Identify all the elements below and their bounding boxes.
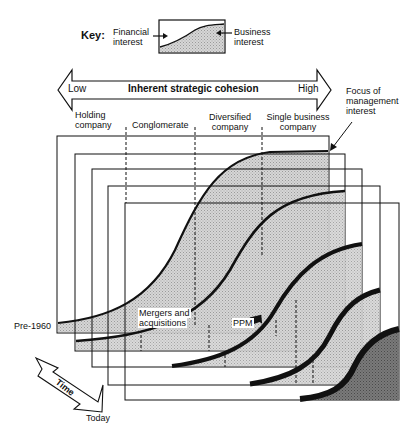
pre-1960-label: Pre-1960	[14, 321, 51, 331]
axis-high-label: High	[298, 84, 319, 94]
stage-conglomerate: Conglomerate	[132, 120, 189, 130]
ppm-label: PPM	[232, 318, 254, 328]
stage-single-line2: company	[264, 122, 332, 132]
stage-holding-line2: company	[75, 120, 112, 130]
key-financial-line1: Financial	[113, 27, 149, 37]
focus-label-line3: interest	[346, 106, 376, 116]
today-label: Today	[86, 413, 110, 423]
axis-title: Inherent strategic cohesion	[128, 84, 259, 94]
stage-holding-line1: Holding	[75, 110, 106, 120]
mergers-label-line2: acquisitions	[138, 318, 187, 328]
key-title: Key:	[81, 30, 105, 40]
focus-label-line2: management	[346, 96, 399, 106]
axis-low-label: Low	[68, 84, 86, 94]
key-financial-line2: interest	[113, 37, 143, 47]
key-box	[153, 20, 232, 53]
mergers-label-line1: Mergers and	[138, 308, 191, 318]
stage-diversified-line1: Diversified	[204, 112, 256, 122]
focus-label-line1: Focus of	[346, 86, 381, 96]
stage-diversified-line2: company	[204, 122, 256, 132]
key-business-line2: interest	[234, 37, 264, 47]
stage-single-line1: Single business	[264, 112, 332, 122]
strategy-diagram	[0, 0, 415, 434]
key-business-line1: Business	[234, 27, 271, 37]
focus-pointer-arrow	[330, 122, 352, 151]
